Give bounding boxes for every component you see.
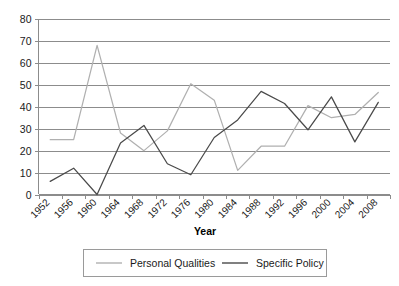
y-tick-label-50: 50	[20, 79, 32, 91]
y-tick-label-80: 80	[20, 13, 32, 25]
y-tick-label-20: 20	[20, 145, 32, 157]
y-tick-label-70: 70	[20, 35, 32, 47]
chart-legend: Personal QualitiesSpecific Policy	[84, 250, 327, 277]
line-chart-figure: 01020304050607080 1952195619601964196819…	[0, 0, 399, 286]
y-tick-labels: 01020304050607080	[20, 13, 32, 201]
y-tick-label-0: 0	[26, 189, 32, 201]
y-tick-label-30: 30	[20, 123, 32, 135]
x-axis-title: Year	[194, 225, 216, 237]
figure-background	[0, 0, 399, 286]
y-tick-label-60: 60	[20, 57, 32, 69]
legend-label-personal-qualities: Personal Qualities	[130, 257, 215, 269]
y-tick-label-40: 40	[20, 101, 32, 113]
chart-svg-canvas: 01020304050607080 1952195619601964196819…	[0, 0, 399, 286]
y-tick-label-10: 10	[20, 167, 32, 179]
legend-label-specific-policy: Specific Policy	[256, 257, 324, 269]
legend-entries: Personal QualitiesSpecific Policy	[96, 257, 324, 269]
